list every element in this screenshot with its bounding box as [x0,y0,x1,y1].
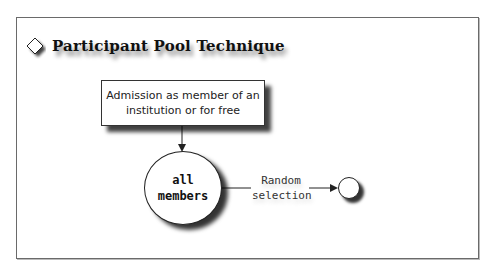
all-members-circle: all members [144,151,222,225]
admission-box: Admission as member of an institution or… [101,80,265,126]
connectors [0,0,493,272]
sample-circle [338,177,360,199]
members-line-2: members [158,188,209,204]
members-line-1: all [172,172,194,188]
edge-label-line-2: selection [252,188,310,203]
random-selection-label: Random selection [252,173,310,203]
arrowhead-right-icon [330,184,338,192]
admission-line-2: institution or for free [106,103,260,118]
edge-label-line-1: Random [252,173,310,188]
admission-line-1: Admission as member of an [106,88,260,103]
